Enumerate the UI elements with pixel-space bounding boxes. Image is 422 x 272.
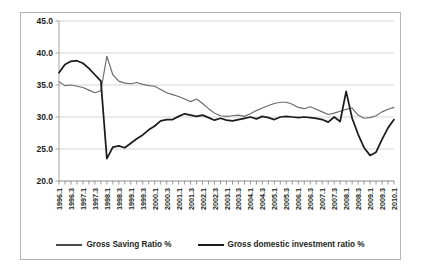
legend-item-saving: Gross Saving Ratio % <box>56 241 171 249</box>
xtick-label-2006.1: 2006.1 <box>294 188 303 210</box>
xtick-label-2003.1: 2003.1 <box>223 188 232 210</box>
xtick-label-1996.3: 1996.3 <box>67 188 76 210</box>
legend-item-investment: Gross domestic investment ratio % <box>198 241 365 249</box>
ytick-label-45.0: 45.0 <box>36 16 53 26</box>
ytick-label-35.0: 35.0 <box>36 80 53 90</box>
legend-label-saving: Gross Saving Ratio % <box>86 241 171 249</box>
xtick-label-2001.1: 2001.1 <box>175 188 184 210</box>
chart-figure: 45.040.035.030.025.020.01996.11996.31997… <box>20 12 401 260</box>
xtick-label-2008.1: 2008.1 <box>342 188 351 210</box>
xtick-label-2000.1: 2000.1 <box>151 188 160 210</box>
xtick-label-2007.3: 2007.3 <box>330 188 339 210</box>
xtick-label-2009.1: 2009.1 <box>366 188 375 210</box>
chart-legend: Gross Saving Ratio % Gross domestic inve… <box>21 241 400 249</box>
xtick-label-2009.3: 2009.3 <box>378 188 387 210</box>
xtick-label-2001.3: 2001.3 <box>187 188 196 210</box>
ytick-label-25.0: 25.0 <box>36 144 53 154</box>
line-chart-svg: 45.040.035.030.025.020.01996.11996.31997… <box>21 13 400 259</box>
xtick-label-1997.1: 1997.1 <box>79 188 88 210</box>
xtick-label-2007.1: 2007.1 <box>318 188 327 210</box>
legend-line-icon-investment <box>198 244 224 246</box>
xtick-label-1996.1: 1996.1 <box>55 188 64 210</box>
xtick-label-2002.1: 2002.1 <box>199 188 208 210</box>
legend-line-icon-saving <box>56 244 82 246</box>
xtick-label-2005.1: 2005.1 <box>270 188 279 210</box>
xtick-label-2002.3: 2002.3 <box>211 188 220 210</box>
ytick-label-30.0: 30.0 <box>36 112 53 122</box>
xtick-label-2003.3: 2003.3 <box>234 188 243 210</box>
xtick-label-2010.1: 2010.1 <box>390 188 399 210</box>
xtick-label-2004.1: 2004.1 <box>246 188 255 210</box>
ytick-label-40.0: 40.0 <box>36 48 53 58</box>
ytick-label-20.0: 20.0 <box>36 176 53 186</box>
xtick-label-1998.3: 1998.3 <box>115 188 124 210</box>
series-line-gross-saving-ratio <box>59 56 394 118</box>
xtick-label-2008.3: 2008.3 <box>354 188 363 210</box>
xtick-label-2006.3: 2006.3 <box>306 188 315 210</box>
xtick-label-1999.3: 1999.3 <box>139 188 148 210</box>
xtick-label-2000.3: 2000.3 <box>163 188 172 210</box>
xtick-label-1998.1: 1998.1 <box>103 188 112 210</box>
xtick-label-1999.1: 1999.1 <box>127 188 136 210</box>
plot-area: 45.040.035.030.025.020.01996.11996.31997… <box>21 13 400 259</box>
xtick-label-2005.3: 2005.3 <box>282 188 291 210</box>
xtick-label-1997.3: 1997.3 <box>91 188 100 210</box>
xtick-label-2004.3: 2004.3 <box>258 188 267 210</box>
legend-label-investment: Gross domestic investment ratio % <box>228 241 365 249</box>
